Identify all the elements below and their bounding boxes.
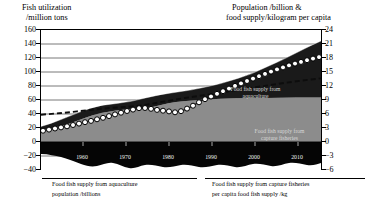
y-right-tick-12: 12: [325, 82, 355, 90]
y-right-tick-9: 9: [325, 96, 355, 104]
capture-inline-label-line1: Food fish supply from: [232, 128, 327, 135]
x-tick-label-1990: 1990: [201, 154, 221, 160]
aquaculture-inline-label-line2: aquaculture: [208, 93, 303, 100]
y-left-tick-80: 80: [0, 82, 36, 90]
y-right-tick-21: 21: [325, 40, 355, 48]
x-tick-label-1970: 1970: [115, 154, 135, 160]
y-left-tick-160: 160: [0, 26, 36, 34]
y-right-tick-6: 6: [325, 110, 355, 118]
left-axis-title-line2: /million tons: [26, 13, 71, 23]
legend-left-line2: population /billions: [52, 189, 138, 199]
y-right-tick-0: 0: [325, 138, 355, 146]
legend-right: Food fish supply from capture fisheries …: [212, 179, 309, 198]
chart-figure: Fish utilization /million tons Populatio…: [0, 0, 370, 211]
y-left-tick-20: 20: [0, 124, 36, 132]
y-left-tick-60: 60: [0, 96, 36, 104]
legend-right-line2: per capita food fish supply /kg: [212, 189, 309, 199]
y-right-tick-18: 18: [325, 54, 355, 62]
aquaculture-inline-label: Food fish supply from aquaculture: [208, 86, 303, 100]
capture-inline-label-line2: capture fisheries: [232, 135, 327, 142]
y-right-tick-15: 15: [325, 68, 355, 76]
x-tick-label-1960: 1960: [72, 154, 92, 160]
y-left-tick-120: 120: [0, 54, 36, 62]
y-right-tick-24: 24: [325, 26, 355, 34]
x-tick-label-2000: 2000: [244, 154, 264, 160]
y-left-tick-40: 40: [0, 110, 36, 118]
left-axis-title-line1: Fish utilization: [22, 3, 71, 13]
x-tick-label-1980: 1980: [158, 154, 178, 160]
y-right-tick-m6: −6: [325, 166, 355, 174]
right-axis-title-line1: Population /billion &: [232, 3, 331, 13]
y-right-tick-m3: −3: [325, 152, 355, 160]
legend-left-line1: Food fish supply from aquaculture: [52, 179, 138, 189]
legend-right-line1: Food fish supply from capture fisheries: [212, 179, 309, 189]
tick-mark: [321, 169, 326, 170]
legend-left: Food fish supply from aquaculture popula…: [52, 179, 138, 198]
y-left-tick-m20: −20: [0, 152, 36, 160]
y-right-tick-3: 3: [325, 124, 355, 132]
chart-svg: [41, 30, 321, 170]
capture-inline-label: Food fish supply from capture fisheries: [232, 128, 327, 142]
aquaculture-inline-label-line1: Food fish supply from: [208, 86, 303, 93]
right-axis-title-line2: food supply/kilogram per capita: [226, 13, 331, 23]
y-left-tick-140: 140: [0, 40, 36, 48]
y-left-tick-100: 100: [0, 68, 36, 76]
right-axis-title: Population /billion & food supply/kilogr…: [232, 3, 331, 23]
y-left-tick-0: 0: [0, 138, 36, 146]
x-tick-label-2010: 2010: [287, 154, 307, 160]
y-left-tick-m40: −40: [0, 166, 36, 174]
left-axis-title: Fish utilization /million tons: [22, 3, 71, 23]
